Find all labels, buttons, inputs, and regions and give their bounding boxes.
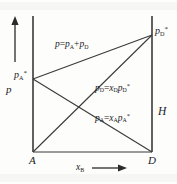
- total-pressure-label: p=pA+pD: [55, 40, 88, 51]
- right-corner-label: D: [148, 155, 156, 166]
- left-corner-label: A: [29, 155, 36, 166]
- y-axis-label: p: [6, 84, 12, 95]
- y-axis-arrow-icon: [11, 16, 18, 25]
- pa-star-asterisk: *: [23, 69, 27, 77]
- pd-p-star: *: [127, 82, 130, 89]
- partial-pressure-a-line: [33, 79, 152, 152]
- total-pressure-term2-sub: D: [84, 44, 88, 50]
- pa-star-point-label: pA*: [14, 70, 27, 81]
- x-axis-arrow-icon: [118, 165, 127, 172]
- right-axis-label: H: [158, 106, 166, 118]
- pd-star-asterisk: *: [164, 25, 168, 33]
- total-pressure-line: [33, 35, 152, 79]
- x-axis-label-sub: B: [80, 167, 84, 173]
- pd-star-point-label: pD*: [155, 26, 168, 37]
- raoults-law-diagram: p=pA+pD pD=xDpD* pA=xApA* pA* pD* p H A …: [0, 0, 177, 184]
- partial-pressure-a-label: pA=xApA*: [95, 113, 130, 124]
- x-axis-label: xB: [76, 163, 84, 174]
- partial-pressure-d-label: pD=xDpD*: [95, 83, 130, 94]
- pa-p-star: *: [127, 112, 130, 119]
- partial-pressure-d-line: [33, 35, 152, 152]
